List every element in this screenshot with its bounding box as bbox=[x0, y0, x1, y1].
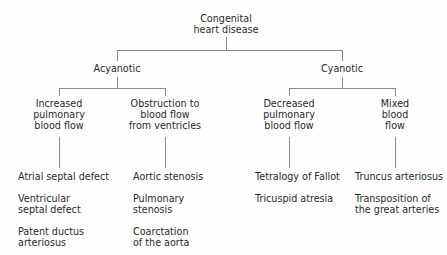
connector-line bbox=[117, 50, 118, 61]
leaf-line: Patent ductus bbox=[18, 226, 84, 237]
leaf-item: Pulmonary stenosis bbox=[133, 193, 184, 215]
leaf-item: Tetralogy of Fallot bbox=[255, 171, 340, 182]
leaf-item: Coarctation of the aorta bbox=[133, 226, 189, 248]
leaf-line: septal defect bbox=[18, 204, 81, 215]
connector-line bbox=[395, 88, 396, 96]
connector-line bbox=[117, 50, 343, 51]
leaf-line: Ventricular bbox=[18, 193, 81, 204]
node-label-line: Decreased bbox=[263, 98, 315, 109]
node-cyanotic: Cyanotic bbox=[321, 63, 363, 74]
node-label-line: pulmonary bbox=[33, 109, 85, 120]
node-obstruction: Obstruction to blood flow from ventricle… bbox=[129, 98, 201, 131]
node-mixed-blood-flow: Mixed blood flow bbox=[381, 98, 409, 131]
node-increased-pulmonary-flow: Increased pulmonary blood flow bbox=[33, 98, 85, 131]
leaf-item: Truncus arteriosus bbox=[355, 171, 443, 182]
leaf-item: Transposition of the great arteries bbox=[355, 193, 439, 215]
leaf-item: Aortic stenosis bbox=[133, 171, 203, 182]
connector-line bbox=[165, 137, 166, 168]
leaf-line: stenosis bbox=[133, 204, 184, 215]
leaf-item: Atrial septal defect bbox=[18, 171, 109, 182]
node-label-line: flow bbox=[381, 120, 409, 131]
node-label-line: blood bbox=[381, 109, 409, 120]
root-label-line: heart disease bbox=[193, 24, 258, 35]
connector-line bbox=[226, 37, 227, 50]
connector-line bbox=[395, 137, 396, 168]
node-label-line: from ventricles bbox=[129, 120, 201, 131]
root-node-label: Congenital heart disease bbox=[193, 13, 258, 35]
node-label-line: blood flow bbox=[33, 120, 85, 131]
connector-line bbox=[289, 137, 290, 168]
connector-line bbox=[117, 77, 118, 88]
node-label-line: blood flow bbox=[129, 109, 201, 120]
node-acyanotic: Acyanotic bbox=[94, 63, 141, 74]
leaf-line: the great arteries bbox=[355, 204, 439, 215]
leaf-line: Coarctation bbox=[133, 226, 189, 237]
connector-line bbox=[342, 50, 343, 61]
leaf-line: arteriosus bbox=[18, 237, 84, 248]
node-label-line: blood flow bbox=[263, 120, 315, 131]
connector-line bbox=[165, 88, 166, 96]
leaf-line: Pulmonary bbox=[133, 193, 184, 204]
leaf-line: Transposition of bbox=[355, 193, 439, 204]
leaf-item: Patent ductus arteriosus bbox=[18, 226, 84, 248]
connector-line bbox=[59, 88, 165, 89]
node-label-line: Increased bbox=[33, 98, 85, 109]
node-label-line: Obstruction to bbox=[129, 98, 201, 109]
connector-line bbox=[342, 77, 343, 88]
connector-line bbox=[59, 88, 60, 96]
node-label-line: Mixed bbox=[381, 98, 409, 109]
connector-line bbox=[289, 88, 395, 89]
leaf-line: of the aorta bbox=[133, 237, 189, 248]
leaf-item: Tricuspid atresia bbox=[255, 193, 333, 204]
node-label-line: pulmonary bbox=[263, 109, 315, 120]
root-label-line: Congenital bbox=[193, 13, 258, 24]
connector-line bbox=[289, 88, 290, 96]
connector-line bbox=[59, 137, 60, 168]
leaf-item: Ventricular septal defect bbox=[18, 193, 81, 215]
node-decreased-pulmonary-flow: Decreased pulmonary blood flow bbox=[263, 98, 315, 131]
